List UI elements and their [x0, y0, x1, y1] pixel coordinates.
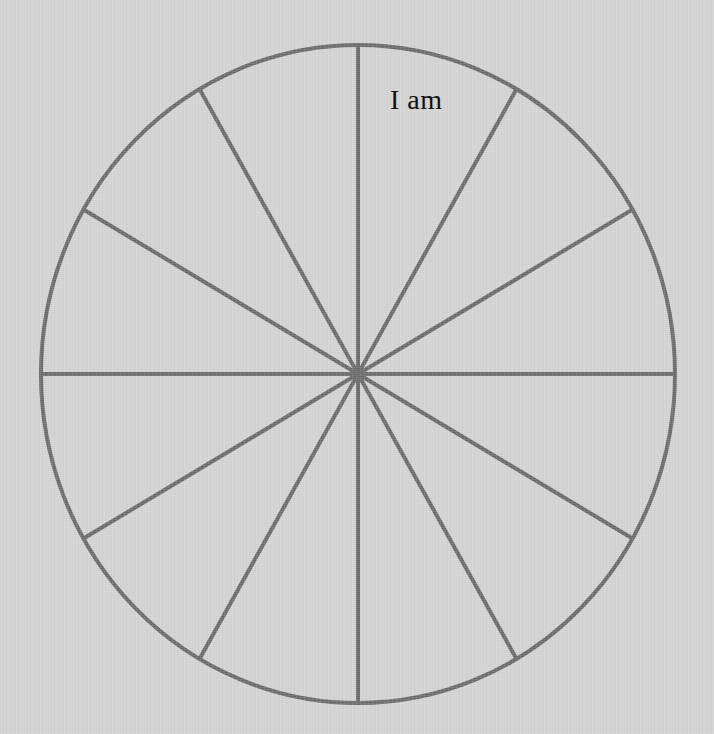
wheel-spoke — [200, 374, 359, 659]
wheel-spoke — [83, 374, 358, 539]
spoke-group — [41, 45, 675, 703]
wheel-diagram — [0, 0, 714, 734]
diagram-canvas: I am — [0, 0, 714, 734]
wheel-spoke — [200, 89, 359, 374]
wheel-spoke — [358, 374, 633, 539]
wheel-spoke — [358, 89, 517, 374]
sector-label: I am — [390, 86, 443, 114]
wheel-spoke — [358, 374, 517, 659]
wheel-spoke — [358, 210, 633, 375]
wheel-group — [41, 45, 675, 703]
wheel-spoke — [83, 210, 358, 375]
